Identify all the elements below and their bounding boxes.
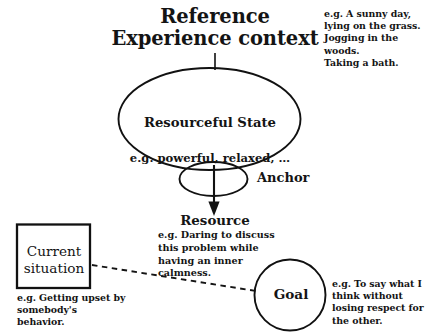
resourceful-state-subtitle: e.g. powerful, relaxed, …	[119, 151, 301, 165]
resource-title: Resource	[155, 212, 275, 228]
current-situation-note: e.g. Getting upset by somebody's behavio…	[17, 292, 127, 329]
current-situation-label: Current situation	[18, 243, 90, 278]
resourceful-state-title: Resourceful State	[119, 115, 301, 131]
resource-subtitle: e.g. Daring to discuss this problem whil…	[158, 229, 293, 280]
goal-label: Goal	[258, 286, 324, 302]
page-title: Reference Experience context	[100, 6, 330, 50]
anchor-label: Anchor	[257, 170, 309, 185]
goal-note: e.g. To say what I think without losing …	[332, 278, 428, 327]
diagram-canvas: Reference Experience context e.g. A sunn…	[0, 0, 428, 332]
reference-experience-note: e.g. A sunny day, lying on the grass. Jo…	[324, 8, 428, 69]
